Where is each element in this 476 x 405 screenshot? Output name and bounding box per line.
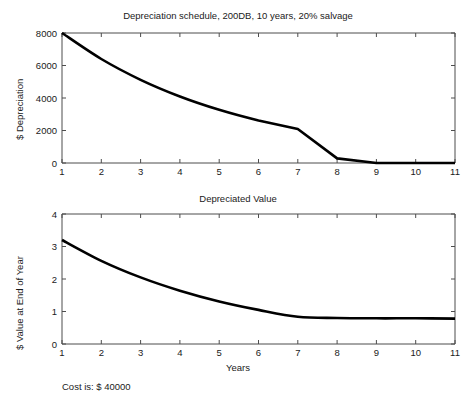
- y-tick-label: 1: [52, 306, 57, 317]
- y-tick-label: 4: [52, 209, 57, 220]
- y-tick-label: 3: [52, 241, 57, 252]
- chart-panel-depreciation-schedule: Depreciation schedule, 200DB, 10 years, …: [0, 0, 476, 195]
- x-tick-label: 10: [410, 347, 421, 358]
- x-tick-label: 11: [450, 166, 460, 177]
- x-tick-label: 8: [334, 166, 339, 177]
- chart-panel-depreciated-value: Depreciated Value $ Value at End of Year…: [0, 190, 476, 390]
- y-tick-label: 6000: [36, 60, 57, 71]
- x-tick-label: 3: [138, 166, 143, 177]
- x-tick-label: 3: [138, 347, 143, 358]
- cost-footnote: Cost is: $ 40000: [62, 381, 131, 392]
- y-tick-label: 8000: [36, 28, 57, 39]
- x-tick-label: 5: [217, 347, 222, 358]
- x-tick-label: 9: [374, 166, 379, 177]
- x-tick-label: 4: [177, 166, 182, 177]
- x-tick-label: 4: [177, 347, 182, 358]
- y-tick-label: 2: [52, 274, 57, 285]
- y-tick-label: 0: [52, 339, 57, 350]
- y-tick-label: 0: [52, 158, 57, 169]
- x-tick-label: 2: [99, 347, 104, 358]
- data-line-depreciation: [62, 33, 455, 163]
- x-tick-label: 2: [99, 166, 104, 177]
- x-tick-label: 6: [256, 347, 261, 358]
- x-tick-label: 7: [295, 347, 300, 358]
- x-tick-label: 1: [59, 347, 64, 358]
- axis-box: [62, 214, 455, 344]
- figure-canvas: Depreciation schedule, 200DB, 10 years, …: [0, 0, 476, 405]
- x-tick-label: 11: [450, 347, 460, 358]
- data-line-depreciated-value: [62, 240, 455, 319]
- x-tick-label: 5: [217, 166, 222, 177]
- x-tick-label: 1: [59, 166, 64, 177]
- x-tick-label: 6: [256, 166, 261, 177]
- plot-area-depreciation-schedule: 123456789101102000400060008000: [0, 0, 476, 195]
- x-tick-label: 8: [334, 347, 339, 358]
- x-tick-label: 9: [374, 347, 379, 358]
- y-tick-label: 4000: [36, 93, 57, 104]
- x-tick-label: 7: [295, 166, 300, 177]
- x-tick-label: 10: [410, 166, 421, 177]
- axis-box: [62, 33, 455, 163]
- y-tick-label: 2000: [36, 125, 57, 136]
- plot-area-depreciated-value: 123456789101101234: [0, 190, 476, 390]
